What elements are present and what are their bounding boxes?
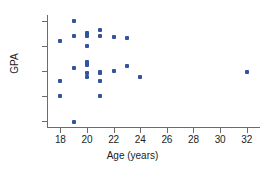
data-point [72,19,76,23]
x-tick-mark [140,128,141,133]
data-point [125,36,129,40]
data-point [58,39,62,43]
data-point [58,94,62,98]
data-point [138,75,142,79]
x-tick-label: 20 [75,134,99,145]
x-tick-mark [220,128,221,133]
x-tick-label: 28 [181,134,205,145]
x-tick-label: 30 [208,134,232,145]
x-tick-mark [114,128,115,133]
x-tick-mark [167,128,168,133]
data-point [98,71,102,75]
data-point [125,64,129,68]
x-tick-label: 32 [235,134,259,145]
x-tick-label: 18 [48,134,72,145]
x-tick-label: 22 [102,134,126,145]
x-tick-mark [87,128,88,133]
data-point [58,79,62,83]
data-point [112,69,116,73]
x-tick-mark [247,128,248,133]
x-axis-title: Age (years) [0,150,265,161]
data-point [85,63,89,67]
x-tick-mark [193,128,194,133]
x-tick-label: 26 [155,134,179,145]
data-point [98,34,102,38]
data-point [112,35,116,39]
data-point [85,44,89,48]
data-point [85,34,89,38]
y-axis-title: GPA [9,44,20,84]
plot-area [47,15,260,128]
x-tick-mark [60,128,61,133]
data-point [85,75,89,79]
x-tick-label: 24 [128,134,152,145]
data-point [245,70,249,74]
data-point [98,94,102,98]
data-point [72,66,76,70]
scatter-chart: 2.02.53.03.54.0 1820222426283032 Age (ye… [0,0,265,171]
data-point [72,34,76,38]
data-point [98,79,102,83]
data-point [72,120,76,124]
